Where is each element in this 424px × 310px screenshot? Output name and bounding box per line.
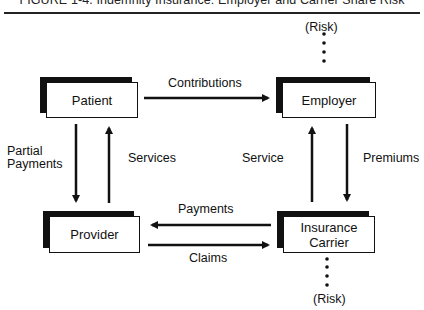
node-patient-label: Patient xyxy=(46,82,138,118)
node-employer-label: Employer xyxy=(282,82,376,118)
node-patient[interactable]: Patient xyxy=(46,82,138,118)
carrier-label-line1: Insurance xyxy=(300,220,357,235)
edge-label-premiums: Premiums xyxy=(363,151,419,165)
edge-label-payments: Payments xyxy=(178,202,234,216)
edge-label-contributions: Contributions xyxy=(168,76,242,90)
edge-label-service: Service xyxy=(242,151,284,165)
risk-dots-top xyxy=(322,32,326,63)
risk-label-top: (Risk) xyxy=(305,20,338,34)
edge-label-partial-payments-1: Partial xyxy=(7,144,42,158)
edge-label-partial-payments-2: Payments xyxy=(7,157,63,171)
edge-label-services: Services xyxy=(128,151,176,165)
node-insurance-carrier[interactable]: Insurance Carrier xyxy=(283,216,375,253)
node-employer[interactable]: Employer xyxy=(282,82,376,118)
edge-label-claims: Claims xyxy=(189,251,227,265)
node-provider-label: Provider xyxy=(49,216,140,253)
node-insurance-carrier-label: Insurance Carrier xyxy=(283,216,375,253)
node-provider[interactable]: Provider xyxy=(49,216,140,253)
risk-label-bottom: (Risk) xyxy=(313,292,346,306)
risk-dots-bottom xyxy=(325,257,329,287)
carrier-label-line2: Carrier xyxy=(309,235,349,250)
